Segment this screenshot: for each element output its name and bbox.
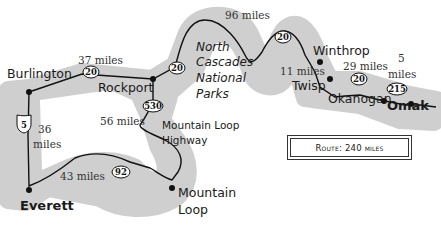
road-label-line1: Mountain Loop — [162, 119, 240, 131]
svg-text:530: 530 — [144, 101, 162, 111]
city-label-twisp: Twisp — [291, 78, 326, 93]
city-label-winthrop: Winthrop — [313, 43, 370, 58]
shield-20-burlington: 20 — [83, 66, 99, 78]
route-map: 20 20 20 20 215 5 530 92 Burlington Rock… — [0, 0, 441, 238]
shield-20-okanogan: 20 — [351, 73, 367, 85]
route-total-legend: Route: 240 miles — [287, 135, 412, 160]
svg-text:20: 20 — [277, 32, 289, 42]
city-label-okanogan: Okanogan — [328, 91, 392, 106]
city-dot-mountain-loop — [169, 185, 175, 191]
city-label-omak: Omak — [387, 98, 429, 113]
shield-20-rockport: 20 — [169, 62, 185, 74]
distance-label-okanogan-omak-line2: miles — [388, 68, 416, 80]
city-dot-twisp — [327, 76, 333, 82]
distance-label-burlington-everett-line1: 36 — [38, 123, 52, 135]
distance-label-burlington-rockport: 37 miles — [78, 54, 123, 66]
shield-20-north: 20 — [275, 31, 291, 43]
distance-label-okanogan-omak-line1: 5 — [398, 52, 405, 64]
distance-label-rockport-winthrop: 96 miles — [225, 9, 270, 21]
shield-530: 530 — [143, 100, 163, 112]
map-canvas: 20 20 20 20 215 5 530 92 Burlington Rock… — [0, 0, 441, 238]
svg-text:20: 20 — [85, 67, 97, 77]
svg-text:5: 5 — [21, 120, 27, 130]
city-label-everett: Everett — [20, 198, 74, 213]
city-label-burlington: Burlington — [7, 66, 72, 81]
park-label-line1: North — [196, 40, 230, 54]
svg-text:20: 20 — [171, 63, 183, 73]
park-label-line2: Cascades — [196, 55, 253, 69]
city-label-loop: Loop — [178, 202, 208, 217]
shield-92: 92 — [112, 166, 130, 178]
city-dot-burlington — [26, 89, 32, 95]
road-label-line2: Highway — [162, 134, 207, 146]
distance-label-everett-mountain-loop: 43 miles — [60, 170, 105, 182]
city-label-mountain: Mountain — [178, 185, 236, 200]
distance-label-burlington-everett-line2: miles — [33, 138, 61, 150]
park-label-line3: National — [196, 71, 247, 85]
park-label-line4: Parks — [196, 87, 229, 101]
distance-label-rockport-mountain-loop: 56 miles — [100, 115, 145, 127]
city-label-rockport: Rockport — [98, 80, 154, 95]
city-dot-everett — [26, 187, 32, 193]
distance-label-twisp-okanogan: 29 miles — [343, 60, 388, 72]
svg-text:92: 92 — [115, 167, 127, 177]
interstate-5-shield: 5 — [17, 115, 31, 133]
svg-text:20: 20 — [353, 74, 365, 84]
distance-label-winthrop-twisp: 11 miles — [280, 65, 325, 77]
route-total-label: Route: 240 miles — [315, 143, 383, 153]
